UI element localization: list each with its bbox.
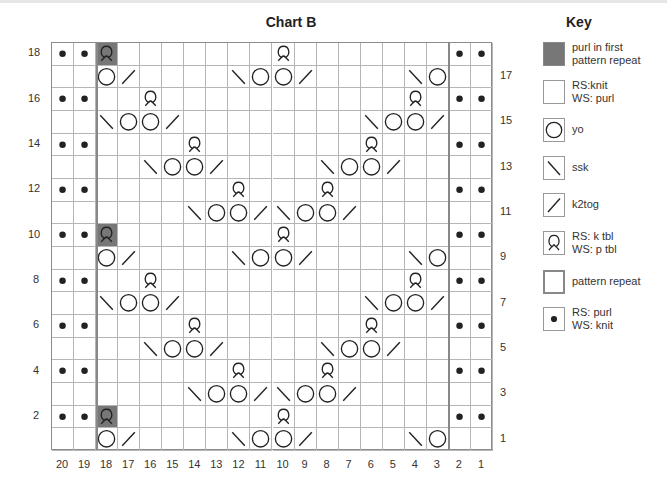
chart-cell-r18-c4 [405, 43, 427, 66]
chart-cell-r13-c20 [52, 156, 74, 179]
chart-cell-r14-c12 [228, 134, 250, 157]
chart-cell-r13-c11 [250, 156, 272, 179]
chart-cell-r4-c10 [273, 360, 295, 383]
chart-cell-r17-c11 [250, 66, 272, 89]
chart-cell-r5-c19 [74, 338, 96, 361]
chart-cell-r14-c16 [140, 134, 162, 157]
chart-cell-r5-c10 [273, 338, 295, 361]
column-label-5: 5 [382, 458, 404, 470]
chart-cell-r4-c18 [96, 360, 118, 383]
chart-cell-r4-c20 [52, 360, 74, 383]
chart-cell-r8-c2 [449, 270, 471, 293]
chart-cell-r17-c10 [273, 66, 295, 89]
chart-cell-r12-c17 [118, 179, 140, 202]
chart-cell-r1-c12 [228, 428, 250, 451]
chart-cell-r7-c4 [405, 292, 427, 315]
chart-cell-r10-c13 [206, 224, 228, 247]
chart-cell-r12-c1 [471, 179, 493, 202]
chart-cell-r15-c9 [295, 111, 317, 134]
chart-cell-r2-c7 [339, 406, 361, 429]
chart-cell-r11-c15 [162, 202, 184, 225]
chart-cell-r7-c20 [52, 292, 74, 315]
chart-cell-r15-c13 [206, 111, 228, 134]
chart-cell-r7-c1 [471, 292, 493, 315]
chart-cell-r1-c7 [339, 428, 361, 451]
chart-cell-r5-c4 [405, 338, 427, 361]
chart-cell-r2-c14 [184, 406, 206, 429]
chart-cell-r8-c5 [383, 270, 405, 293]
chart-cell-r5-c16 [140, 338, 162, 361]
chart-cell-r18-c2 [449, 43, 471, 66]
chart-cell-r17-c15 [162, 66, 184, 89]
chart-cell-r18-c9 [295, 43, 317, 66]
chart-cell-r16-c10 [273, 88, 295, 111]
chart-cell-r12-c19 [74, 179, 96, 202]
chart-cell-r3-c11 [250, 383, 272, 406]
chart-cell-r6-c18 [96, 315, 118, 338]
chart-cell-r18-c6 [361, 43, 383, 66]
chart-cell-r1-c19 [74, 428, 96, 451]
chart-cell-r8-c8 [317, 270, 339, 293]
k-tbl-loop-icon [543, 231, 565, 255]
chart-cell-r12-c16 [140, 179, 162, 202]
chart-cell-r14-c2 [449, 134, 471, 157]
chart-cell-r2-c8 [317, 406, 339, 429]
chart-cell-r6-c10 [273, 315, 295, 338]
chart-cell-r11-c19 [74, 202, 96, 225]
key-label: RS: k tbl WS: p tbl [572, 230, 667, 256]
chart-cell-r11-c10 [273, 202, 295, 225]
chart-cell-r13-c17 [118, 156, 140, 179]
chart-cell-r7-c7 [339, 292, 361, 315]
chart-cell-r10-c2 [449, 224, 471, 247]
chart-cell-r8-c16 [140, 270, 162, 293]
chart-cell-r13-c7 [339, 156, 361, 179]
chart-cell-r1-c4 [405, 428, 427, 451]
chart-cell-r15-c11 [250, 111, 272, 134]
chart-cell-r6-c20 [52, 315, 74, 338]
chart-cell-r5-c11 [250, 338, 272, 361]
chart-cell-r2-c11 [250, 406, 272, 429]
chart-cell-r14-c19 [74, 134, 96, 157]
chart-cell-r15-c19 [74, 111, 96, 134]
chart-cell-r9-c3 [427, 247, 449, 270]
chart-cell-r16-c5 [383, 88, 405, 111]
chart-cell-r1-c14 [184, 428, 206, 451]
chart-cell-r4-c5 [383, 360, 405, 383]
chart-cell-r6-c13 [206, 315, 228, 338]
chart-cell-r4-c11 [250, 360, 272, 383]
chart-cell-r8-c11 [250, 270, 272, 293]
key-label: yo [572, 123, 667, 136]
chart-cell-r12-c2 [449, 179, 471, 202]
chart-cell-r18-c12 [228, 43, 250, 66]
chart-cell-r18-c7 [339, 43, 361, 66]
chart-cell-r6-c8 [317, 315, 339, 338]
chart-cell-r1-c15 [162, 428, 184, 451]
chart-cell-r8-c4 [405, 270, 427, 293]
chart-cell-r16-c18 [96, 88, 118, 111]
chart-cell-r12-c5 [383, 179, 405, 202]
row-label-7: 7 [500, 296, 506, 308]
chart-cell-r11-c18 [96, 202, 118, 225]
chart-cell-r12-c7 [339, 179, 361, 202]
chart-cell-r6-c17 [118, 315, 140, 338]
chart-cell-r1-c9 [295, 428, 317, 451]
key-label: k2tog [572, 198, 667, 211]
chart-cell-r7-c19 [74, 292, 96, 315]
chart-cell-r1-c16 [140, 428, 162, 451]
chart-cell-r17-c2 [449, 66, 471, 89]
chart-cell-r9-c15 [162, 247, 184, 270]
column-label-18: 18 [95, 458, 117, 470]
chart-cell-r9-c1 [471, 247, 493, 270]
chart-cell-r1-c13 [206, 428, 228, 451]
chart-cell-r16-c20 [52, 88, 74, 111]
chart-cell-r11-c13 [206, 202, 228, 225]
pattern-repeat-left-line [96, 42, 98, 450]
chart-cell-r14-c4 [405, 134, 427, 157]
chart-cell-r9-c6 [361, 247, 383, 270]
chart-cell-r16-c13 [206, 88, 228, 111]
column-label-3: 3 [426, 458, 448, 470]
chart-cell-r11-c16 [140, 202, 162, 225]
chart-cell-r11-c1 [471, 202, 493, 225]
purl-dot-icon [543, 307, 565, 331]
row-label-3: 3 [500, 386, 506, 398]
